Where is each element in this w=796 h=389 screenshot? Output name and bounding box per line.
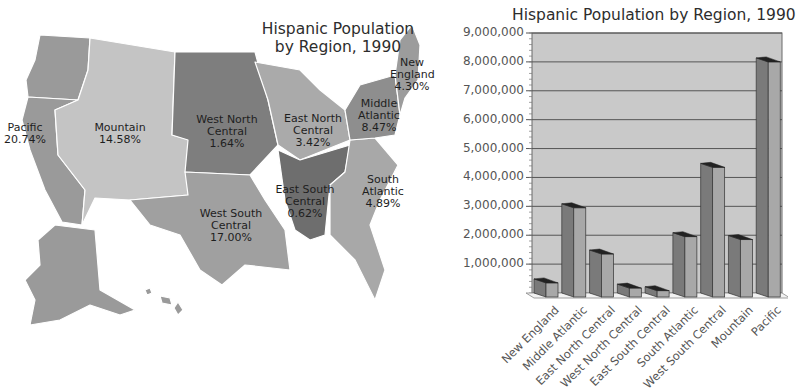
bar-mountain	[740, 240, 752, 297]
y-tick-label: 2,000,000	[463, 227, 524, 241]
bar-side	[756, 58, 768, 297]
bar-pacific	[768, 62, 780, 297]
us-region-map: Hispanic Population by Region, 1990 Paci…	[0, 0, 420, 389]
y-tick-label: 8,000,000	[463, 54, 524, 68]
bar-side	[673, 233, 685, 297]
y-tick-label: 1,000,000	[463, 256, 524, 270]
y-tick-label: 5,000,000	[463, 141, 524, 155]
label-mountain: Mountain14.58%	[88, 122, 152, 146]
label-south-atlantic: SouthAtlantic4.89%	[358, 174, 408, 210]
bar-west-north-central	[629, 288, 641, 297]
y-tick-label: 6,000,000	[463, 112, 524, 126]
label-middle-atlantic: MiddleAtlantic8.47%	[354, 98, 404, 134]
bar-side	[562, 204, 574, 297]
bar-chart: Hispanic Population by Region, 1990 1,00…	[420, 0, 788, 389]
map-title: Hispanic Population by Region, 1990	[258, 20, 418, 56]
bar-east-north-central	[602, 254, 614, 297]
us-map-graphic	[0, 0, 420, 389]
bar-side	[590, 250, 602, 297]
label-east-south-central: East SouthCentral0.62%	[272, 184, 338, 220]
bar-middle-atlantic	[574, 208, 586, 297]
bar-side	[728, 236, 740, 297]
bar-east-south-central	[657, 291, 669, 297]
pacific-region	[26, 35, 90, 100]
label-west-south-central: West SouthCentral17.00%	[196, 208, 266, 244]
label-west-north-central: West NorthCentral1.64%	[192, 114, 262, 150]
y-tick-label: 7,000,000	[463, 83, 524, 97]
alaska-region	[25, 225, 135, 325]
bar-new-england	[546, 283, 558, 297]
y-tick-label: 4,000,000	[463, 169, 524, 183]
y-tick-label: 9,000,000	[463, 25, 524, 39]
label-east-north-central: East NorthCentral3.42%	[278, 113, 348, 149]
bar-west-south-central	[713, 167, 725, 297]
y-tick-label: 3,000,000	[463, 198, 524, 212]
bar-side	[701, 163, 713, 297]
hawaii-region	[145, 288, 183, 315]
label-pacific: Pacific20.74%	[0, 122, 50, 146]
bar-south-atlantic	[685, 237, 697, 297]
